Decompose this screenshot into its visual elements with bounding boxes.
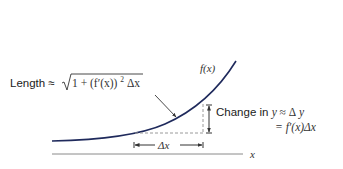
change-prefix: Change in (216, 106, 272, 118)
arc-length-diagram: x f(x) Δx Length ≈ 1 + (f′(x)) 2 Δx (0, 0, 343, 169)
change-label: Change in y ≈ Δ y = f′(x)Δx (216, 106, 317, 134)
length-leader-arrow (155, 95, 176, 117)
svg-text:Length ≈: Length ≈ (10, 77, 55, 89)
svg-text:Change in y ≈ Δ: Change in y ≈ Δ y (216, 106, 305, 119)
length-label: Length ≈ 1 + (f′(x)) 2 Δx (10, 72, 143, 90)
exponent: 2 (120, 75, 124, 84)
change-var-y: y (271, 106, 278, 119)
change-rel: ≈ Δ (280, 106, 297, 118)
length-prefix: Length ≈ (10, 77, 55, 89)
curve-label: f(x) (200, 62, 216, 75)
delta-x-suffix: Δx (127, 77, 140, 89)
delta-x-label: Δx (157, 139, 169, 151)
delta-y-arrow (206, 105, 212, 133)
svg-text:1 + (f′(x)) 2 Δx: 1 + (f′(x)) 2 Δx (72, 72, 140, 90)
x-axis-label: x (249, 148, 255, 160)
change-var-y2: y (298, 106, 305, 119)
change-line2: = f′(x)Δx (275, 121, 317, 134)
radicand: 1 + (f′(x)) (72, 77, 118, 90)
